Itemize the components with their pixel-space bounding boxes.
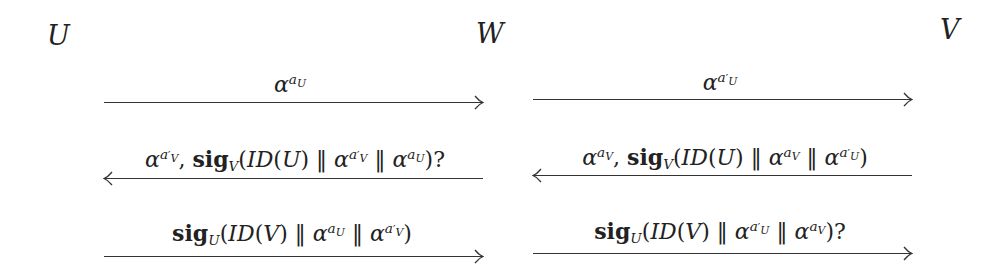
arrowhead-right-icon	[903, 246, 913, 261]
message-2-UW-arrow	[104, 178, 483, 179]
message-1-UW-label: αaU	[274, 74, 306, 96]
party-U: U	[47, 22, 70, 49]
party-W: W	[476, 20, 504, 47]
message-1-WV-arrow	[533, 99, 912, 100]
message-1-WV-label: αa′U	[703, 72, 738, 94]
message-2-WV-label: αaV, sigV(ID(U) ‖ αaV ‖ αa′U)	[582, 146, 868, 169]
arrowhead-right-icon	[474, 95, 484, 110]
message-1-UW-arrow	[104, 102, 483, 103]
message-3-UW-arrow	[104, 256, 483, 257]
message-3-WV-label: sigU(ID(V) ‖ αa′U ‖ αaV)?	[594, 220, 846, 243]
message-3-UW-label: sigU(ID(V) ‖ αaU ‖ αa′V)	[172, 222, 412, 245]
message-2-UW-label: αa′V, sigV(ID(U) ‖ αa′V ‖ αaU)?	[145, 148, 445, 171]
arrowhead-left-icon	[532, 168, 542, 183]
message-3-WV-arrow	[533, 253, 912, 254]
arrowhead-right-icon	[474, 249, 484, 264]
arrowhead-right-icon	[903, 92, 913, 107]
party-V: V	[940, 16, 960, 43]
message-2-WV-arrow	[533, 175, 912, 176]
arrowhead-left-icon	[103, 171, 113, 186]
